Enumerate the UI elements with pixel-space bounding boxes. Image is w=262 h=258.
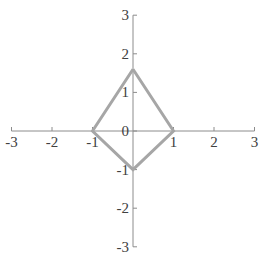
y-tick-label: 2 bbox=[122, 46, 130, 62]
x-tick-label: -2 bbox=[46, 134, 59, 150]
x-tick-label: 3 bbox=[251, 134, 259, 150]
y-tick-label: 0 bbox=[122, 123, 130, 139]
x-tick-label: 1 bbox=[170, 134, 178, 150]
chart: -3-2-11233210-1-2-3 bbox=[0, 0, 262, 258]
y-tick-label: -2 bbox=[117, 200, 130, 216]
y-tick-label: -3 bbox=[117, 239, 130, 255]
y-tick-label: 3 bbox=[122, 7, 130, 23]
x-tick-label: 2 bbox=[210, 134, 218, 150]
x-tick-label: -3 bbox=[5, 134, 18, 150]
